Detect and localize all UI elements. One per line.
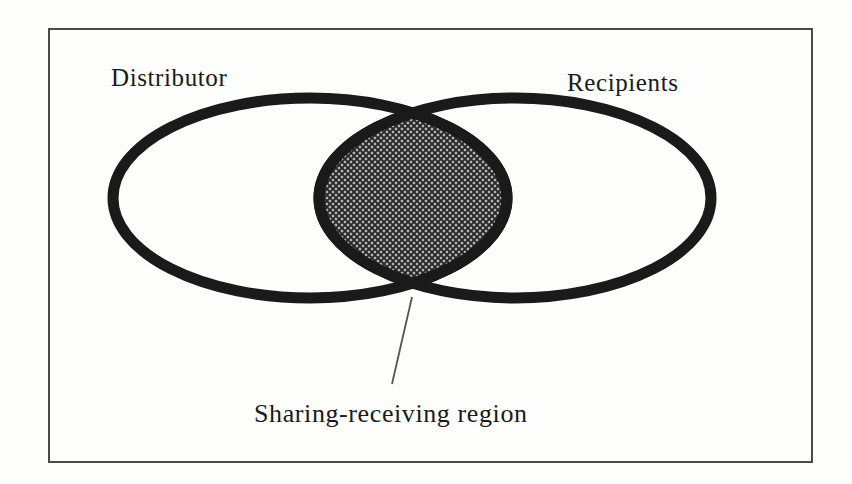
set-label-distributor: Distributor (111, 64, 227, 92)
intersection-caption: Sharing-receiving region (254, 399, 528, 429)
venn-diagram-figure: Distributor Recipients Sharing-receiving… (0, 0, 852, 484)
set-label-recipients: Recipients (567, 69, 679, 97)
leader-line-icon (392, 297, 412, 384)
